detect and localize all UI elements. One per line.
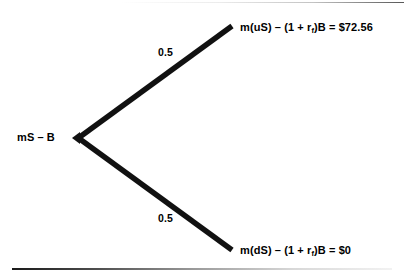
root-node-label: mS – B: [17, 131, 55, 144]
down-branch-payoff-label: m(dS) – (1 + rf)B = $0: [240, 244, 351, 257]
down-payoff-prefix: m(dS) – (1 + r: [240, 244, 311, 256]
up-branch-line: [77, 26, 232, 139]
bottom-divider-rule: [12, 268, 392, 270]
up-payoff-prefix: m(uS) – (1 + r: [240, 21, 311, 33]
down-payoff-suffix: )B = $0: [314, 244, 351, 256]
root-vertex-marker: [72, 132, 80, 144]
up-branch-probability-label: 0.5: [158, 46, 173, 59]
diagram-canvas: mS – B 0.5 0.5 m(uS) – (1 + rf)B = $72.5…: [0, 0, 404, 278]
up-payoff-suffix: )B = $72.56: [314, 21, 373, 33]
down-payoff-subscript: f: [311, 249, 314, 258]
up-payoff-subscript: f: [311, 26, 314, 35]
binomial-tree-graphic: [0, 0, 404, 278]
down-branch-probability-label: 0.5: [158, 212, 173, 225]
down-branch-line: [77, 137, 232, 250]
up-branch-payoff-label: m(uS) – (1 + rf)B = $72.56: [240, 21, 373, 34]
